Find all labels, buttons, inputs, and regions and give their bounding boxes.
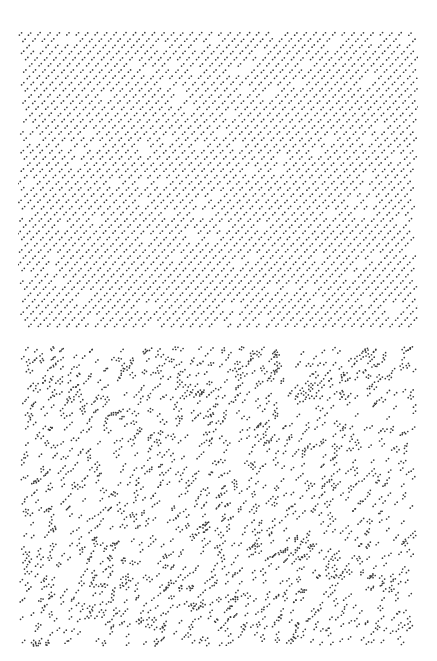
random-dot-pair-pattern bbox=[18, 345, 418, 648]
regular-dot-pair-pattern bbox=[18, 30, 418, 330]
random-texture-panel bbox=[18, 345, 418, 648]
regular-texture-panel bbox=[18, 30, 418, 330]
